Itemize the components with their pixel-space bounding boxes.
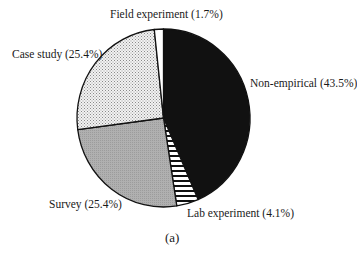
label-non-empirical: Non-empirical (43.5%) bbox=[250, 78, 357, 90]
label-survey: Survey (25.4%) bbox=[49, 199, 122, 211]
label-field-experiment: Field experiment (1.7%) bbox=[110, 9, 223, 21]
label-lab-experiment: Lab experiment (4.1%) bbox=[187, 208, 294, 220]
figure-caption: (a) bbox=[165, 231, 179, 244]
label-case-study: Case study (25.4%) bbox=[12, 49, 102, 61]
pie-slices bbox=[77, 29, 250, 207]
pie-slice-case-study bbox=[77, 30, 164, 130]
pie-slice-survey bbox=[78, 118, 177, 207]
